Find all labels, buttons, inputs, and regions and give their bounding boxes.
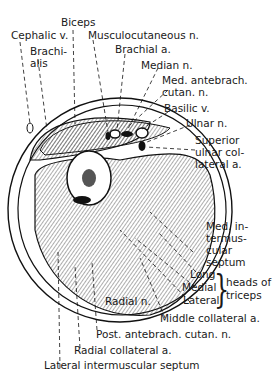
label-med-antebrach-2: cutan. n. [162, 86, 208, 98]
cephalic-vein [27, 123, 33, 133]
basilic-vein [136, 128, 148, 138]
label-post-antebrach: Post. antebrach. cutan. n. [96, 328, 231, 340]
musculocutaneous-nerve [106, 132, 111, 140]
label-medial: Medial [182, 281, 216, 293]
label-brachial-a: Brachial a. [115, 43, 171, 55]
label-med-intermusc-3: cular [206, 244, 232, 256]
radial-nerve [73, 196, 91, 204]
label-long: Long [190, 268, 215, 280]
label-superior-ulnar-2: ulnar col- [195, 146, 244, 158]
label-heads-of: heads of [226, 276, 271, 288]
bone-marrow [82, 169, 96, 187]
label-biceps: Biceps [61, 16, 96, 28]
label-radial-n: Radial n. [105, 295, 151, 307]
ulnar-nerve [139, 141, 146, 151]
label-superior-ulnar-3: lateral a. [195, 158, 242, 170]
label-superior-ulnar-1: Superior [195, 134, 239, 146]
label-triceps: triceps [226, 289, 262, 301]
label-brachialis-2: alis [30, 57, 48, 69]
label-lateral-intermuscular-septum: Lateral intermuscular septum [44, 359, 200, 371]
median-nerve [121, 131, 133, 137]
label-brachialis-1: Brachi- [30, 45, 67, 57]
label-ulnar-n: Ulnar n. [186, 117, 227, 129]
label-radial-collateral-a: Radial collateral a. [74, 344, 172, 356]
label-musculocutaneous-n: Musculocutaneous n. [88, 29, 199, 41]
label-basilic-v: Basilic v. [164, 102, 210, 114]
label-med-antebrach-1: Med. antebrach. [162, 74, 248, 86]
brachial-artery [110, 130, 120, 138]
label-med-intermusc-2: termus- [206, 232, 247, 244]
label-cephalic-v: Cephalic v. [11, 29, 68, 41]
label-middle-collateral-a: Middle collateral a. [160, 312, 260, 324]
label-med-intermusc-1: Med. in- [206, 220, 248, 232]
label-median-n: Median n. [141, 59, 193, 71]
